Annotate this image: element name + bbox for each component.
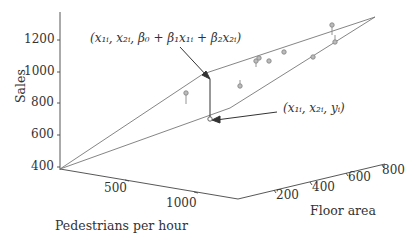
annotation-arrows	[180, 47, 277, 123]
y-axis-title: Floor area	[310, 203, 376, 218]
z-axis-title: Sales	[13, 69, 28, 103]
y-tick-600: 600	[348, 170, 371, 184]
observed-point-annotation: (x₁ᵢ, x₂ᵢ, yᵢ)	[283, 101, 345, 115]
z-tick-600: 600	[31, 127, 54, 141]
z-axis	[57, 12, 60, 170]
y-tick-800: 800	[382, 163, 405, 177]
x-axis	[60, 169, 238, 199]
x-tick-1000: 1000	[166, 196, 197, 210]
y-tick-400: 400	[312, 180, 335, 194]
z-tick-800: 800	[31, 95, 54, 109]
x-axis-title: Pedestrians per hour	[55, 218, 188, 233]
z-tick-1000: 1000	[24, 64, 55, 78]
fitted-point-annotation: (x₁ᵢ, x₂ᵢ, β₀ + β₁x₁ᵢ + β₂x₂ᵢ)	[90, 31, 241, 45]
z-tick-400: 400	[31, 159, 54, 173]
y-tick-200: 200	[276, 188, 299, 202]
z-tick-1200: 1200	[24, 32, 55, 46]
x-tick-500: 500	[104, 181, 127, 195]
